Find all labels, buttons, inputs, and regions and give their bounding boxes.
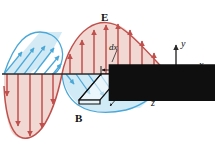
z-axis-label: z [151, 98, 155, 108]
b-field-vector-arrow-icon [75, 110, 215, 147]
e-field-label: E [101, 12, 108, 23]
em-wave-figure: E B dx Δz x y z [0, 0, 215, 147]
dz-label: Δz [118, 84, 127, 93]
b-field-label: B [75, 113, 82, 124]
y-axis-label: y [181, 39, 185, 49]
volume-element-front-face [79, 100, 100, 104]
dx-label: dx [109, 43, 118, 52]
x-axis-label: x [199, 60, 203, 70]
